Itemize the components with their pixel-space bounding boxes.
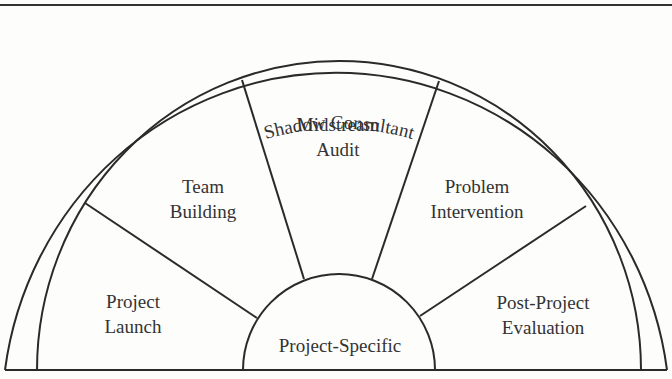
spoke-3 [372,81,439,279]
segment-label-line1: Team [170,174,237,199]
segment-label-line1: Midstream [297,112,379,137]
segment-label-line2: Evaluation [497,315,590,340]
segment-post-project-evaluation: Post-Project Evaluation [497,290,590,340]
segment-label-line2: Audit [297,137,379,162]
segment-label-line2: Launch [105,314,162,339]
hub-label: Project-Specific [279,333,401,358]
segment-midstream-audit: Midstream Audit [297,112,379,162]
segment-label-line1: Problem [431,174,524,199]
segment-label-line2: Intervention [431,199,524,224]
segment-team-building: Team Building [170,174,237,224]
spoke-2 [242,80,304,279]
hub-label-text: Project-Specific [279,333,401,358]
segment-label-line2: Building [170,199,237,224]
segment-problem-intervention: Problem Intervention [431,174,524,224]
segment-label-line1: Project [105,289,162,314]
segment-label-line1: Post-Project [497,290,590,315]
semicircle-diagram: Shadow Consultant Project Launch Team Bu… [0,0,672,379]
segment-project-launch: Project Launch [105,289,162,339]
